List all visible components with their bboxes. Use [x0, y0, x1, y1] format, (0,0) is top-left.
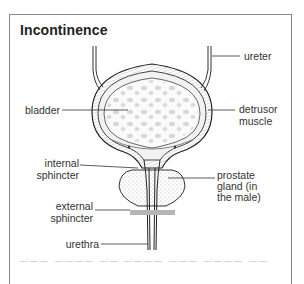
external-sphincter-band [130, 210, 175, 215]
label-ureter: ureter [244, 51, 271, 61]
label-external-sphincter-line2: sphincter [20, 213, 93, 223]
bladder [92, 64, 212, 168]
label-internal-sphincter-line2: sphincter [20, 170, 79, 180]
prostate-gland [119, 170, 185, 206]
label-urethra: urethra [20, 239, 99, 249]
label-detrusor-line1: detrusor [239, 104, 278, 114]
label-prostate-line1: prostate [217, 170, 255, 180]
label-prostate-line2: gland (in [217, 181, 257, 191]
label-external-sphincter-line1: external [20, 201, 93, 211]
label-detrusor-line2: muscle [239, 116, 272, 126]
caption-cutoff: ▔▔▔ ▔▔▔▔ ▔▔ ▔▔▔▔ ▔▔▔ ▔▔▔▔ ▔▔ [20, 261, 280, 267]
label-internal-sphincter-line1: internal [20, 158, 79, 168]
label-bladder: bladder [20, 105, 60, 115]
label-prostate-line3: the male) [217, 192, 261, 202]
